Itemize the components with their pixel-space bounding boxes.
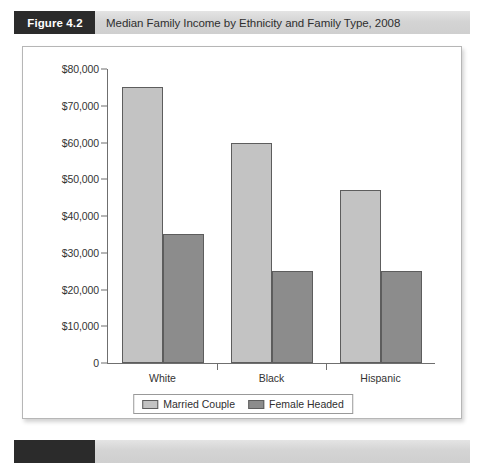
figure-number-badge: Figure 4.2 <box>14 11 95 34</box>
bar <box>272 271 313 363</box>
x-axis-tick-mark <box>217 364 218 370</box>
legend-swatch <box>248 400 264 409</box>
x-axis-tick-mark <box>326 364 327 370</box>
y-axis-tick-label: 0 <box>93 357 99 369</box>
x-axis-line <box>107 363 435 364</box>
bar <box>340 190 381 363</box>
figure-header: Figure 4.2 Median Family Income by Ethni… <box>14 11 470 34</box>
bar <box>381 271 422 363</box>
bar-group <box>231 69 313 363</box>
chart-legend: Married CoupleFemale Headed <box>133 394 353 414</box>
x-axis-category-label: Black <box>259 372 285 384</box>
y-axis-labels: 0$10,000$20,000$30,000$40,000$50,000$60,… <box>23 47 107 420</box>
next-figure-header <box>14 440 470 463</box>
figure-caption: Median Family Income by Ethnicity and Fa… <box>95 11 470 34</box>
legend-item: Married Couple <box>142 398 235 410</box>
legend-item: Female Headed <box>248 398 344 410</box>
y-axis-tick-label: $50,000 <box>62 173 99 185</box>
bar <box>231 143 272 364</box>
y-axis-tick-label: $70,000 <box>62 100 99 112</box>
y-axis-tick-label: $80,000 <box>62 63 99 75</box>
y-axis-tick-label: $40,000 <box>62 210 99 222</box>
bars-container <box>108 69 435 363</box>
y-axis-tick-label: $10,000 <box>62 320 99 332</box>
bar-group <box>122 69 204 363</box>
plot-area: 0$10,000$20,000$30,000$40,000$50,000$60,… <box>23 47 463 420</box>
chart-panel: 0$10,000$20,000$30,000$40,000$50,000$60,… <box>22 46 462 419</box>
y-axis-tick-label: $20,000 <box>62 284 99 296</box>
bar <box>163 234 204 363</box>
legend-label: Married Couple <box>163 398 235 410</box>
bar <box>122 87 163 363</box>
next-figure-number-badge <box>14 440 95 463</box>
legend-label: Female Headed <box>269 398 344 410</box>
legend-swatch <box>142 400 158 409</box>
x-axis-category-label: Hispanic <box>360 372 400 384</box>
y-axis-tick-label: $30,000 <box>62 247 99 259</box>
x-axis-category-label: White <box>149 372 176 384</box>
bar-group <box>340 69 422 363</box>
y-axis-tick-label: $60,000 <box>62 137 99 149</box>
